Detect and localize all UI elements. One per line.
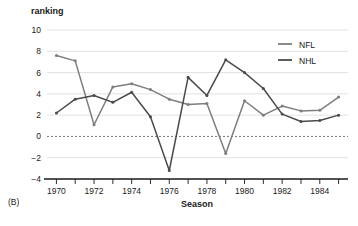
x-tick-label: 1976 xyxy=(160,186,179,196)
data-point-nhl xyxy=(262,87,265,90)
data-point-nhl xyxy=(74,98,77,101)
panel-label: (B) xyxy=(8,197,20,207)
y-tick-label: −4 xyxy=(31,174,41,184)
x-tick-label: 1972 xyxy=(85,186,104,196)
data-point-nhl xyxy=(187,76,190,79)
y-tick-label: 10 xyxy=(32,25,42,35)
data-point-nhl xyxy=(111,101,114,104)
data-point-nfl xyxy=(149,88,152,91)
data-point-nfl xyxy=(205,102,208,105)
x-axis-title: Season xyxy=(181,199,213,209)
data-point-nhl xyxy=(337,114,340,117)
y-tick-label: 0 xyxy=(36,131,41,141)
x-tick-label: 1974 xyxy=(122,186,141,196)
data-point-nhl xyxy=(299,120,302,123)
legend-label-nfl: NFL xyxy=(299,40,315,50)
data-point-nfl xyxy=(168,98,171,101)
data-point-nfl xyxy=(93,123,96,126)
chart-figure: ranking 1086420−2−4 19701972197419761978… xyxy=(0,0,358,226)
y-tick-label: 6 xyxy=(36,68,41,78)
data-point-nhl xyxy=(149,115,152,118)
x-tick-label: 1980 xyxy=(235,186,254,196)
data-point-nfl xyxy=(318,109,321,112)
data-point-nhl xyxy=(224,58,227,61)
data-point-nfl xyxy=(224,152,227,155)
data-point-nhl xyxy=(168,169,171,172)
data-point-nhl xyxy=(243,71,246,74)
y-tick-label: 8 xyxy=(36,46,41,56)
data-point-nfl xyxy=(281,105,284,108)
data-point-nhl xyxy=(281,113,284,116)
data-point-nhl xyxy=(318,119,321,122)
data-point-nhl xyxy=(93,94,96,97)
data-point-nfl xyxy=(262,114,265,117)
legend-label-nhl: NHL xyxy=(299,56,316,66)
data-point-nfl xyxy=(74,59,77,62)
x-tick-label: 1982 xyxy=(273,186,292,196)
y-tick-label: 4 xyxy=(36,89,41,99)
data-point-nfl xyxy=(299,109,302,112)
data-point-nfl xyxy=(130,82,133,85)
x-tick-label: 1978 xyxy=(197,186,216,196)
data-point-nfl xyxy=(111,85,114,88)
data-point-nfl xyxy=(337,96,340,99)
data-point-nhl xyxy=(205,94,208,97)
y-tick-label: 2 xyxy=(36,110,41,120)
data-point-nhl xyxy=(130,91,133,94)
y-axis-title: ranking xyxy=(31,6,64,16)
data-point-nhl xyxy=(55,112,58,115)
x-tick-label: 1970 xyxy=(47,186,66,196)
data-point-nfl xyxy=(55,54,58,57)
y-tick-label: −2 xyxy=(31,153,41,163)
data-point-nfl xyxy=(243,99,246,102)
x-tick-label: 1984 xyxy=(310,186,329,196)
data-point-nfl xyxy=(187,103,190,106)
